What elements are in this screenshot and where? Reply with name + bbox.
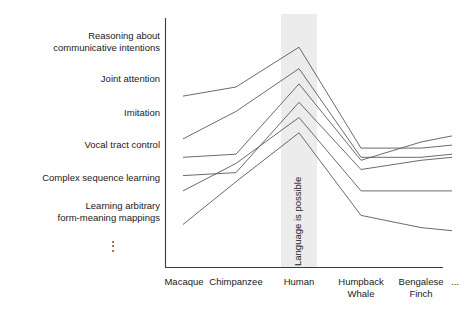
series-lines (183, 47, 452, 231)
category-label-chimpanzee: Chimpanzee (200, 276, 272, 288)
category-label-ellipsis: ... (444, 276, 466, 288)
row-label-vocal-tract-control: Vocal tract control (10, 139, 160, 151)
row-label-imitation: Imitation (10, 107, 160, 119)
row-label-joint-attention: Joint attention (10, 73, 160, 85)
category-label-humpback-whale: Humpback Whale (330, 276, 392, 299)
y-axis-continuation-ellipsis-icon: ⋮ (103, 241, 123, 251)
row-label-reasoning: Reasoning about communicative intentions (10, 30, 160, 53)
category-label-bengalese-finch: Bengalese Finch (390, 276, 452, 299)
row-label-learning-arbitrary-mappings: Learning arbitrary form-meaning mappings (10, 200, 160, 223)
highlight-band-label: Language is possible (292, 177, 303, 266)
chart-figure: Language is possible Reasoning about com… (0, 0, 468, 317)
category-label-human: Human (266, 276, 332, 288)
series-line-6 (183, 133, 452, 231)
series-line-5 (183, 118, 452, 191)
series-line-2 (183, 69, 452, 158)
row-label-complex-sequence-learning: Complex sequence learning (10, 172, 160, 184)
series-line-1 (183, 47, 452, 148)
